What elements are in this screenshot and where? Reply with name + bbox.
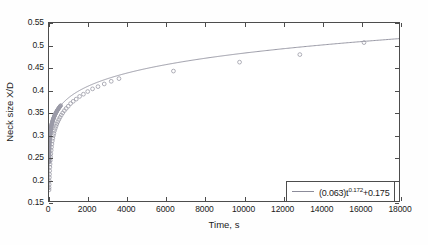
y-tick-mark (49, 68, 53, 69)
data-plot (49, 23, 399, 201)
y-tick-mark (395, 46, 399, 47)
x-axis-title: Time, s (209, 219, 240, 230)
x-tick-mark (362, 23, 363, 27)
y-tick-mark (395, 113, 399, 114)
x-tick-mark (284, 197, 285, 201)
y-tick-mark (395, 23, 399, 24)
y-tick-label: 0.5 (32, 40, 44, 50)
data-point (91, 87, 95, 91)
x-tick-label: 4000 (117, 204, 136, 214)
y-tick-label: 0.25 (28, 152, 44, 162)
y-tick-label: 0.55 (28, 17, 44, 27)
x-tick-mark (127, 23, 128, 27)
data-point (86, 90, 90, 94)
data-point (96, 85, 100, 89)
y-tick-mark (395, 68, 399, 69)
x-tick-mark (245, 197, 246, 201)
y-tick-mark (49, 158, 53, 159)
y-tick-mark (395, 181, 399, 182)
fit-curve (49, 39, 399, 190)
x-tick-mark (205, 23, 206, 27)
x-tick-mark (166, 23, 167, 27)
y-tick-label: 0.15 (28, 197, 44, 207)
data-point (102, 82, 106, 86)
x-tick-mark (166, 197, 167, 201)
y-tick-mark (49, 91, 53, 92)
x-tick-mark (49, 197, 50, 201)
x-tick-label: 10000 (232, 204, 255, 214)
data-point (109, 79, 113, 83)
x-tick-mark (88, 197, 89, 201)
x-tick-label: 18000 (388, 204, 411, 214)
y-tick-mark (49, 23, 53, 24)
x-tick-mark (88, 23, 89, 27)
y-tick-label: 0.4 (32, 85, 44, 95)
data-point (172, 69, 176, 73)
legend-entry-label: (0.063)t0.172+0.175 (319, 186, 389, 198)
x-tick-mark (323, 23, 324, 27)
x-tick-mark (245, 23, 246, 27)
y-tick-mark (49, 113, 53, 114)
legend-line-swatch (292, 191, 314, 192)
x-tick-label: 12000 (271, 204, 294, 214)
y-tick-mark (395, 91, 399, 92)
data-point (298, 53, 302, 57)
y-tick-mark (395, 136, 399, 137)
x-tick-label: 0 (46, 204, 51, 214)
y-tick-label: 0.3 (32, 130, 44, 140)
data-point (78, 95, 82, 99)
y-tick-mark (49, 136, 53, 137)
chart-legend: (0.063)t0.172+0.175 (286, 181, 395, 202)
data-point (238, 60, 242, 64)
chart-figure: Neck size X/D Time, s 0.150.20.250.30.35… (0, 0, 428, 245)
x-tick-mark (284, 23, 285, 27)
data-point (117, 77, 121, 81)
x-tick-mark (401, 197, 402, 201)
x-tick-mark (127, 197, 128, 201)
x-tick-label: 6000 (156, 204, 175, 214)
plot-area (48, 22, 400, 202)
y-tick-label: 0.35 (28, 107, 44, 117)
data-point (53, 127, 57, 131)
x-tick-label: 8000 (195, 204, 214, 214)
x-tick-mark (205, 197, 206, 201)
y-tick-mark (49, 181, 53, 182)
y-tick-label: 0.45 (28, 62, 44, 72)
data-point (82, 92, 86, 96)
data-point (74, 97, 78, 101)
y-tick-mark (395, 158, 399, 159)
y-axis-title: Neck size X/D (4, 82, 15, 142)
x-tick-label: 14000 (310, 204, 333, 214)
x-tick-label: 16000 (349, 204, 372, 214)
x-tick-mark (401, 23, 402, 27)
data-point-group (49, 41, 366, 192)
x-tick-label: 2000 (78, 204, 97, 214)
y-tick-mark (49, 46, 53, 47)
y-tick-label: 0.2 (32, 175, 44, 185)
